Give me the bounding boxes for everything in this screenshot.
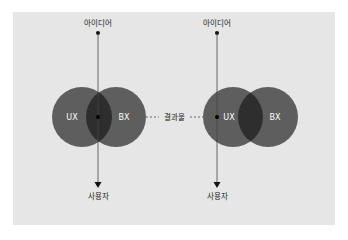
left-bottom-label: 사용자: [88, 192, 109, 201]
right-center-dot: [215, 115, 219, 119]
diagram-canvas: 결과물 UX BX 아이디어 사용자 UX BX 아이디어 사용자: [0, 0, 348, 240]
left-center-dot: [96, 115, 100, 119]
left-arrowhead-icon: [95, 182, 102, 188]
left-top-label: 아이디어: [84, 18, 112, 28]
left-bx-label: BX: [119, 113, 130, 122]
connector-label: 결과물: [164, 112, 185, 122]
left-ux-label: UX: [66, 113, 78, 122]
right-top-label: 아이디어: [203, 18, 231, 28]
right-bx-label: BX: [270, 113, 281, 122]
right-bottom-label: 사용자: [207, 192, 228, 201]
right-ux-label: UX: [223, 113, 235, 122]
right-arrowhead-icon: [214, 182, 221, 188]
